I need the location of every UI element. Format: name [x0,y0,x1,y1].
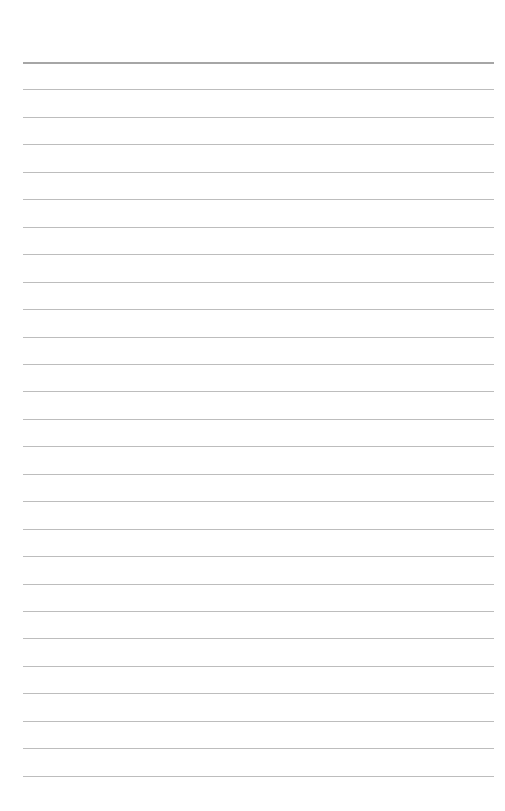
rule-line [23,721,494,722]
rule-line [23,144,494,145]
rule-line [23,254,494,255]
rule-line [23,638,494,639]
rule-line [23,446,494,447]
rule-line [23,337,494,338]
rule-line [23,693,494,694]
rule-line [23,117,494,118]
rule-line [23,227,494,228]
rule-line [23,419,494,420]
rule-line [23,529,494,530]
rule-line [23,556,494,557]
rule-line [23,364,494,365]
rule-line [23,666,494,667]
rule-line [23,282,494,283]
rule-line [23,89,494,90]
rule-line [23,776,494,777]
top-rule-line [23,62,494,64]
rule-line [23,474,494,475]
rule-line [23,501,494,502]
rule-line [23,199,494,200]
lined-page [0,0,505,811]
rule-line [23,748,494,749]
rule-line [23,611,494,612]
rule-line [23,391,494,392]
rule-line [23,172,494,173]
rule-line [23,309,494,310]
rule-line [23,584,494,585]
